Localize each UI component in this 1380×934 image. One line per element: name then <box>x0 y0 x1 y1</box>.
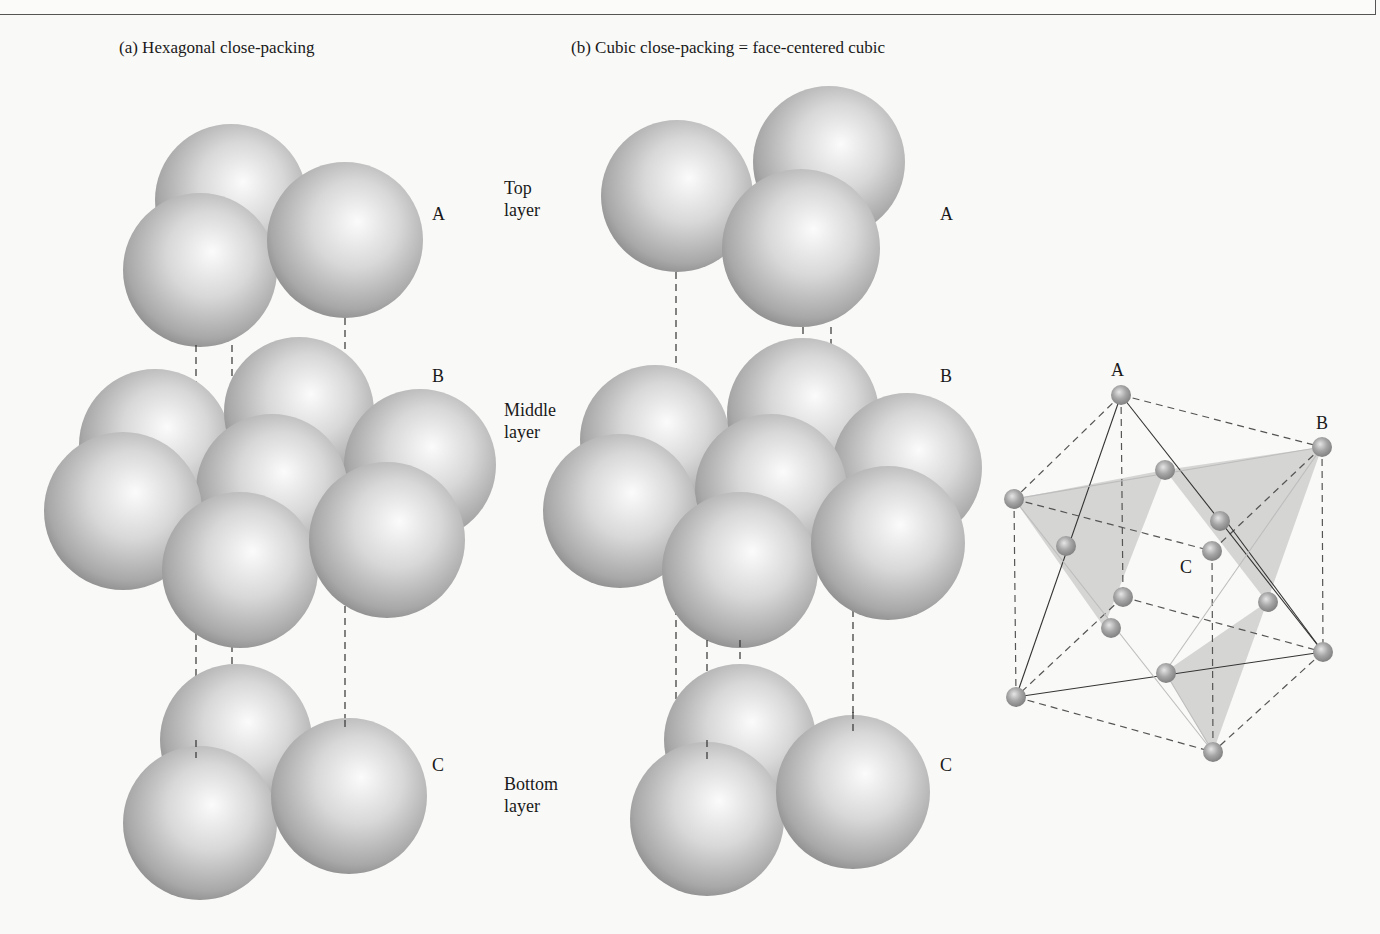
lattice-atom <box>1056 536 1076 556</box>
diagram-canvas <box>0 0 1380 934</box>
hcp-bottom-sphere <box>271 718 427 874</box>
lattice-atom <box>1113 587 1133 607</box>
lattice-atom <box>1313 642 1333 662</box>
unit-cell-label-b: B <box>1316 413 1328 434</box>
hcp-layer-label-c: C <box>432 755 444 776</box>
ccp-layer-label-b: B <box>940 366 952 387</box>
hcp-layer-label-a: A <box>432 204 445 225</box>
lattice-atom <box>1312 437 1332 457</box>
ccp-layer-label-c: C <box>940 755 952 776</box>
lattice-atom <box>1111 385 1131 405</box>
lattice-atom <box>1101 618 1121 638</box>
ccp-stack <box>543 86 982 896</box>
hcp-layer-label-b: B <box>432 366 444 387</box>
cube-edge <box>1014 499 1016 697</box>
ccp-middle-sphere <box>811 466 965 620</box>
close-packed-plane <box>1014 470 1165 627</box>
lattice-atom <box>1203 742 1223 762</box>
hcp-top-sphere <box>267 162 423 318</box>
cube-edge <box>1322 447 1323 652</box>
lattice-atom <box>1258 592 1278 612</box>
unit-cell-label-a: A <box>1111 360 1124 381</box>
ccp-bottom-sphere <box>776 715 930 869</box>
lattice-atom <box>1202 541 1222 561</box>
close-packed-plane <box>1165 602 1267 752</box>
ccp-top-sphere <box>722 169 880 327</box>
hcp-top-sphere <box>123 193 277 347</box>
cube-edge <box>1016 697 1213 752</box>
lattice-atom <box>1210 511 1230 531</box>
lattice-atom <box>1006 687 1026 707</box>
hcp-bottom-sphere <box>123 746 277 900</box>
lattice-atom <box>1156 663 1176 683</box>
fcc-unit-cell <box>1004 385 1333 762</box>
ccp-layer-label-a: A <box>940 204 953 225</box>
hcp-middle-sphere <box>309 462 465 618</box>
close-packed-plane <box>1165 447 1322 602</box>
ccp-middle-sphere <box>662 492 818 648</box>
lattice-atom <box>1155 460 1175 480</box>
hcp-middle-sphere <box>162 492 318 648</box>
ccp-bottom-sphere <box>630 742 784 896</box>
cube-edge <box>1121 395 1322 447</box>
unit-cell-label-c: C <box>1180 557 1192 578</box>
hcp-stack <box>44 124 496 900</box>
lattice-atom <box>1004 489 1024 509</box>
